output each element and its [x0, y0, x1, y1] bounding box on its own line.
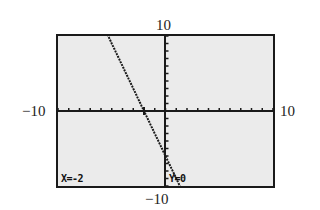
xmin-label: −10 [22, 104, 45, 119]
y-readout: Y=0 [169, 173, 186, 184]
calculator-graph-screen: X=-2 Y=0 [56, 34, 275, 188]
xmax-label: 10 [280, 104, 295, 119]
axis-ticks [58, 36, 273, 186]
x-readout: X=-2 [61, 173, 83, 184]
ymax-label: 10 [156, 18, 171, 33]
trace-cursor [140, 107, 148, 115]
ymin-label: −10 [145, 192, 168, 207]
graph-canvas [58, 36, 273, 186]
